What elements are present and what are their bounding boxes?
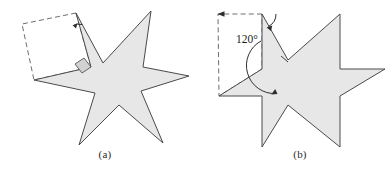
figure-container: 120° (a) (b) [0, 0, 392, 175]
panel-b-dashed-left-arrowhead-icon [218, 11, 225, 17]
panel-a-star-shape [34, 11, 189, 145]
panel-b-caption: (b) [265, 148, 335, 160]
panel-a-group [22, 11, 189, 145]
panel-b-rotation-arc-top [269, 14, 276, 26]
panel-b-group [218, 11, 386, 147]
panel-a-arc-arrowhead-icon [73, 23, 78, 28]
panel-a-caption: (a) [70, 148, 140, 160]
panel-b-angle-label: 120° [236, 33, 258, 45]
